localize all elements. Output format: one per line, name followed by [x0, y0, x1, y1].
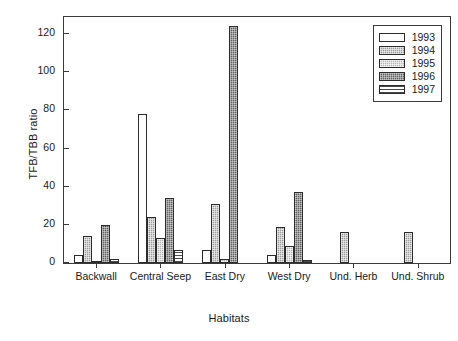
bar-backwall-1993[interactable]: [74, 255, 83, 263]
x-tick-label: Central Seep: [130, 270, 191, 282]
y-tick-label: 20: [43, 217, 55, 229]
chart-figure: TFB/TBB ratio 020406080100120 BackwallCe…: [0, 0, 458, 341]
bar-group-bars: [128, 17, 192, 263]
legend-item-1996[interactable]: 1996: [379, 71, 435, 83]
x-tick-mark: [289, 263, 290, 268]
x-tick-label: East Dry: [205, 270, 245, 282]
x-tick-mark: [96, 263, 97, 268]
y-tick-label: 0: [49, 255, 55, 267]
legend-swatch-1995: [379, 59, 405, 68]
bar-east-dry-1996[interactable]: [229, 26, 238, 263]
legend-swatch-1996: [379, 72, 405, 81]
bar-west-dry-1993[interactable]: [267, 255, 276, 263]
legend-label: 1993: [412, 32, 435, 43]
bar-group: East Dry: [193, 17, 257, 263]
bar-group-bars: [64, 17, 128, 263]
bar-group: Backwall: [64, 17, 128, 263]
bar-backwall-1994[interactable]: [83, 236, 92, 263]
legend-label: 1997: [412, 84, 435, 95]
plot-area: 020406080100120 BackwallCentral SeepEast…: [63, 16, 451, 264]
legend-swatch-1994: [379, 46, 405, 55]
bar-central-seep-1995[interactable]: [156, 238, 165, 263]
y-tick-label: 80: [43, 102, 55, 114]
y-tick-label: 60: [43, 141, 55, 153]
x-tick-mark: [160, 263, 161, 268]
x-tick-mark: [353, 263, 354, 268]
y-tick-label: 100: [37, 64, 55, 76]
bar-group-bars: [257, 17, 321, 263]
x-tick-mark: [418, 263, 419, 268]
bar-west-dry-1994[interactable]: [276, 227, 285, 263]
x-tick-mark: [225, 263, 226, 268]
bar-backwall-1997[interactable]: [110, 259, 119, 263]
y-axis-title: TFB/TBB ratio: [27, 64, 39, 224]
bar-central-seep-1997[interactable]: [174, 250, 183, 263]
legend-label: 1994: [412, 45, 435, 56]
bar-und-shrub-1994[interactable]: [404, 232, 413, 263]
legend-label: 1996: [412, 71, 435, 82]
bar-central-seep-1996[interactable]: [165, 198, 174, 263]
x-tick-label: West Dry: [268, 270, 311, 282]
bar-east-dry-1994[interactable]: [211, 204, 220, 263]
legend-swatch-1993: [379, 33, 405, 42]
bar-central-seep-1994[interactable]: [147, 217, 156, 263]
legend-item-1994[interactable]: 1994: [379, 45, 435, 57]
x-tick-label: Und. Herb: [330, 270, 378, 282]
legend-label: 1995: [412, 58, 435, 69]
x-axis-title: Habitats: [0, 312, 458, 324]
y-tick-label: 40: [43, 179, 55, 191]
bar-west-dry-1996[interactable]: [294, 192, 303, 263]
bar-group: Central Seep: [128, 17, 192, 263]
bar-group: West Dry: [257, 17, 321, 263]
legend-swatch-1997: [379, 85, 405, 94]
bar-west-dry-1997[interactable]: [303, 260, 312, 263]
chart-legend: 19931994199519961997: [373, 25, 442, 102]
legend-item-1995[interactable]: 1995: [379, 58, 435, 70]
bar-east-dry-1993[interactable]: [202, 250, 211, 263]
bar-west-dry-1995[interactable]: [285, 246, 294, 263]
bar-backwall-1996[interactable]: [101, 225, 110, 263]
legend-item-1993[interactable]: 1993: [379, 32, 435, 44]
legend-item-1997[interactable]: 1997: [379, 84, 435, 96]
bar-group-bars: [193, 17, 257, 263]
y-tick-label: 120: [37, 26, 55, 38]
bar-und-herb-1994[interactable]: [340, 232, 349, 263]
x-tick-label: Und. Shrub: [391, 270, 444, 282]
x-tick-label: Backwall: [75, 270, 116, 282]
bar-central-seep-1993[interactable]: [138, 114, 147, 263]
